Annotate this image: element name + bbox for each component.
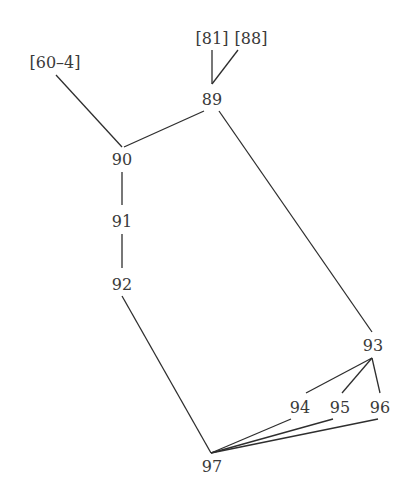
node-90: 90: [112, 150, 132, 169]
edge-96-to-97: [211, 419, 378, 453]
stemma-diagram: [60–4] [81] [88] 89 90 91 92 93 94 95 96…: [0, 0, 409, 496]
node-91: 91: [112, 212, 132, 231]
edge-88-to-89: [212, 50, 238, 84]
node-60-4: [60–4]: [29, 53, 80, 72]
node-97: 97: [202, 457, 222, 476]
edge-92-to-97: [122, 296, 211, 453]
edge-93-to-96: [372, 358, 380, 393]
node-94: 94: [290, 398, 310, 417]
edge-94-to-97: [211, 419, 291, 453]
node-93: 93: [363, 336, 383, 355]
node-96: 96: [370, 398, 390, 417]
edge-95-to-97: [211, 419, 333, 453]
node-95: 95: [330, 398, 350, 417]
edge-60-4-to-90: [56, 75, 122, 147]
edge-89-to-90: [124, 111, 204, 147]
node-88: [88]: [235, 29, 268, 48]
edge-93-to-95: [342, 358, 372, 393]
node-89: 89: [202, 90, 222, 109]
edge-89-to-93: [219, 111, 372, 332]
node-81: [81]: [196, 29, 229, 48]
node-92: 92: [112, 275, 132, 294]
edge-93-to-94: [306, 358, 372, 393]
